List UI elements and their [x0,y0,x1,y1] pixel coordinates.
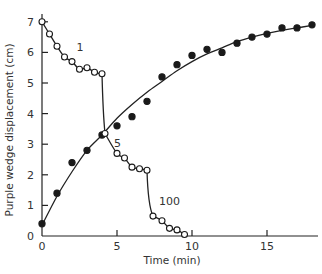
open-data-point [102,130,108,136]
y-tick-label: 5 [27,77,34,90]
y-tick-label: 0 [27,230,34,243]
open-data-point [114,150,120,156]
open-data-point [69,59,75,65]
filled-data-point [84,147,90,153]
y-tick-label: 1 [27,199,34,212]
curve-label: 5 [114,137,121,150]
filled-data-point [309,22,315,28]
open-data-point [99,71,105,77]
open-data-point [144,167,150,173]
open-data-point [159,218,165,224]
open-data-point [150,213,156,219]
open-data-point [39,19,45,25]
open-data-point [47,31,53,37]
open-data-point [54,43,60,49]
filled-data-point [39,221,45,227]
drop-1-to-5 [102,74,105,134]
x-tick-label: 0 [39,240,46,253]
filled-data-point [279,25,285,31]
open-data-point [174,227,180,233]
filled-data-point [114,123,120,129]
y-tick-label: 3 [27,138,34,151]
open-data-point [182,231,188,237]
open-data-point [62,54,68,60]
filled-data-point [204,46,210,52]
filled-data-point [189,52,195,58]
x-tick-label: 10 [185,240,199,253]
open-data-point [122,155,128,161]
filled-data-point [54,190,60,196]
chart-canvas: 051015 01234567 15100 Time (min) Purple … [0,0,322,274]
filled-data-point [264,31,270,37]
curve-label: 1 [77,41,84,54]
filled-data-point [129,114,135,120]
y-tick-label: 4 [27,108,34,121]
open-data-point [92,69,98,75]
filled-data-point [159,74,165,80]
y-tick-label: 2 [27,169,34,182]
open-data-point [129,164,135,170]
x-axis-label: Time (min) [142,254,200,266]
y-tick-label: 7 [27,16,34,29]
filled-data-point [174,62,180,68]
drop-5-to-100 [147,170,153,216]
filled-data-point [249,34,255,40]
x-tick-label: 5 [114,240,121,253]
y-tick-label: 6 [27,46,34,59]
filled-data-point [219,49,225,55]
curve-5 [105,133,147,170]
curve-label: 100 [159,195,180,208]
open-data-point [137,166,143,172]
x-axis-ticks: 051015 [39,230,275,253]
y-axis-ticks: 01234567 [27,16,48,243]
curve-1 [42,22,102,74]
curve-labels: 15100 [77,41,181,209]
filled-data-point [144,98,150,104]
filled-data-point [234,40,240,46]
filled-data-point [69,159,75,165]
filled-data-point [294,25,300,31]
open-data-point [84,65,90,71]
open-data-point [167,225,173,231]
open-data-point [77,66,83,72]
y-axis-label: Purple wedge displacement (cm) [3,44,15,217]
x-tick-label: 15 [260,240,274,253]
